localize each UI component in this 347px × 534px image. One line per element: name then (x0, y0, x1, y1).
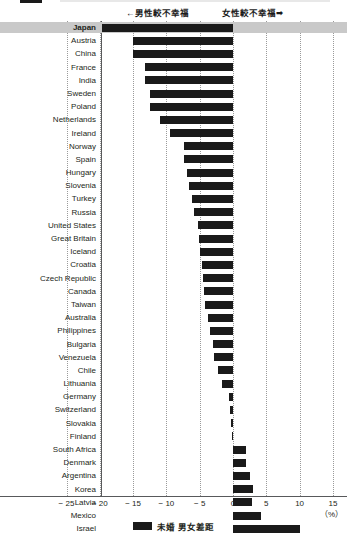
table-row: Finland (0, 430, 347, 443)
table-row: China (0, 47, 347, 60)
bar-spain (184, 155, 233, 163)
bar-croatia (202, 261, 233, 269)
legend-swatch-icon (133, 522, 152, 530)
country-label-germany: Germany (63, 390, 96, 403)
table-row: Slovenia (0, 179, 347, 192)
x-axis-tick-labels: − 25− 20− 15− 10− 5051015 (0, 497, 347, 511)
table-row: Denmark (0, 456, 347, 469)
x-tick--20: − 20 (92, 497, 108, 511)
bar-russia (194, 208, 233, 216)
legend-label: 未婚 男女差距 (157, 520, 213, 532)
country-label-hungary: Hungary (66, 166, 96, 179)
country-label-great-britain: Great Britain (51, 232, 96, 245)
table-row: Poland (0, 100, 347, 113)
country-label-norway: Norway (69, 140, 96, 153)
bar-australia (208, 314, 233, 322)
bar-philippines (210, 327, 233, 335)
annotation-men-less-happy: ←男性較不幸福 (126, 6, 189, 21)
x-tick--5: − 5 (194, 497, 205, 511)
table-row: Chile (0, 364, 347, 377)
table-row: India (0, 74, 347, 87)
country-label-slovenia: Slovenia (65, 179, 96, 192)
bar-slovakia (231, 419, 233, 427)
bar-india (145, 76, 233, 84)
country-label-china: China (75, 47, 96, 60)
table-row: Australia (0, 311, 347, 324)
bar-chile (218, 366, 233, 374)
bar-great-britain (199, 235, 233, 243)
bar-finland (232, 432, 233, 440)
table-row: Argentina (0, 469, 347, 482)
x-tick--15: − 15 (125, 497, 141, 511)
country-label-turkey: Turkey (72, 192, 96, 205)
table-row: Ireland (0, 127, 347, 140)
bar-china (133, 50, 233, 58)
table-row: Switzerland (0, 403, 347, 416)
country-label-sweden: Sweden (67, 87, 96, 100)
table-row: Japan (0, 21, 347, 34)
table-row: Turkey (0, 192, 347, 205)
country-label-ireland: Ireland (72, 127, 96, 140)
table-row: Sweden (0, 87, 347, 100)
table-row: United States (0, 219, 347, 232)
x-tick--10: − 10 (158, 497, 174, 511)
country-label-russia: Russia (72, 206, 96, 219)
x-tick-0: 0 (231, 497, 235, 511)
bar-turkey (192, 195, 233, 203)
country-label-netherlands: Netherlands (53, 113, 96, 126)
country-label-taiwan: Taiwan (71, 298, 96, 311)
bar-rows: JapanAustriaChinaFranceIndiaSwedenPoland… (0, 21, 347, 496)
bar-ireland (170, 129, 233, 137)
chart-legend: 未婚 男女差距 (0, 516, 347, 530)
table-row: Lithuania (0, 377, 347, 390)
country-label-croatia: Croatia (70, 258, 96, 271)
country-label-finland: Finland (70, 430, 96, 443)
table-row: Venezuela (0, 351, 347, 364)
country-label-korea: Korea (75, 483, 96, 496)
country-label-slovakia: Slovakia (66, 417, 96, 430)
bar-bulgaria (213, 340, 233, 348)
country-label-australia: Australia (65, 311, 96, 324)
country-label-canada: Canada (68, 285, 96, 298)
country-label-south-africa: South Africa (53, 443, 96, 456)
country-label-argentina: Argentina (62, 469, 96, 482)
bar-argentina (233, 472, 250, 480)
country-label-japan: Japan (73, 21, 96, 34)
bar-norway (184, 142, 233, 150)
bar-czech-republic (203, 274, 233, 282)
country-label-iceland: Iceland (70, 245, 96, 258)
bar-slovenia (189, 182, 233, 190)
table-row: Taiwan (0, 298, 347, 311)
annotation-women-less-happy: 女性較不幸福➡ (222, 6, 283, 21)
table-row: Spain (0, 153, 347, 166)
bar-venezuela (214, 353, 233, 361)
table-row: Philippines (0, 324, 347, 337)
country-label-austria: Austria (71, 34, 96, 47)
country-label-venezuela: Venezuela (59, 351, 96, 364)
x-tick-10: 10 (295, 497, 304, 511)
table-row: Czech Republic (0, 272, 347, 285)
chart-header-annotations: ←男性較不幸福 女性較不幸福➡ (0, 6, 347, 21)
country-label-poland: Poland (71, 100, 96, 113)
country-label-united-states: United States (48, 219, 96, 232)
bar-france (145, 63, 233, 71)
country-label-denmark: Denmark (64, 456, 96, 469)
bar-lithuania (222, 380, 233, 388)
table-row: Korea (0, 483, 347, 496)
bar-japan (102, 24, 233, 32)
country-label-philippines: Philippines (57, 324, 96, 337)
country-label-france: France (71, 61, 96, 74)
table-row: Iceland (0, 245, 347, 258)
bar-poland (150, 103, 233, 111)
country-label-switzerland: Switzerland (55, 403, 96, 416)
bar-united-states (198, 221, 233, 229)
bar-switzerland (230, 406, 233, 414)
country-label-india: India (79, 74, 96, 87)
bar-netherlands (160, 116, 233, 124)
table-row: France (0, 61, 347, 74)
table-row: Hungary (0, 166, 347, 179)
bar-south-africa (233, 446, 246, 454)
bar-canada (204, 287, 233, 295)
table-row: Germany (0, 390, 347, 403)
x-tick-5: 5 (264, 497, 268, 511)
